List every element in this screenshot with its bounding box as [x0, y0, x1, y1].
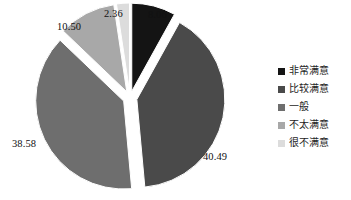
pie-chart: 8.0640.4938.5810.502.36 非常满意比较满意一般不太满意很不… [0, 0, 351, 200]
legend-item-label: 比较满意 [289, 80, 329, 98]
pie-data-label: 38.58 [12, 139, 36, 150]
legend-swatch-icon [278, 104, 285, 111]
legend-item-label: 不太满意 [289, 116, 329, 134]
pie-data-label: 10.50 [57, 22, 81, 33]
legend-item[interactable]: 非常满意 [278, 62, 350, 80]
legend-swatch-icon [278, 140, 285, 147]
pie-data-label: 2.36 [104, 9, 123, 20]
legend-item[interactable]: 不太满意 [278, 116, 350, 134]
legend-swatch-icon [278, 68, 285, 75]
chart-legend: 非常满意比较满意一般不太满意很不满意 [278, 62, 350, 152]
legend-item[interactable]: 比较满意 [278, 80, 350, 98]
legend-item-label: 非常满意 [289, 62, 329, 80]
legend-item-label: 一般 [289, 98, 309, 116]
legend-item[interactable]: 一般 [278, 98, 350, 116]
legend-swatch-icon [278, 122, 285, 129]
legend-swatch-icon [278, 86, 285, 93]
pie-data-label: 40.49 [203, 152, 227, 163]
legend-item-label: 很不满意 [289, 134, 329, 152]
pie-data-label: 8.06 [148, 10, 167, 21]
legend-item[interactable]: 很不满意 [278, 134, 350, 152]
